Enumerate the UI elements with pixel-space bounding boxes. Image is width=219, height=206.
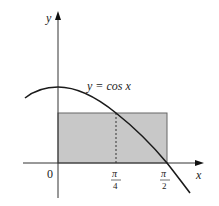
y-axis-arrow-icon: [55, 11, 61, 20]
tick-pi-over-4-denominator: 4: [113, 181, 118, 191]
tick-pi-over-2-denominator: 2: [162, 181, 167, 191]
function-label: y = cos x: [86, 79, 131, 93]
tick-pi-over-4-numerator: π: [112, 168, 118, 179]
cosine-diagram: y x 0 y = cos x π 4 π 2: [0, 0, 219, 206]
origin-label: 0: [47, 167, 53, 181]
tick-pi-over-2-numerator: π: [161, 168, 167, 179]
x-axis-label: x: [195, 168, 202, 182]
shaded-rectangle: [58, 113, 167, 163]
x-axis-arrow-icon: [195, 160, 204, 166]
y-axis-label: y: [45, 11, 52, 25]
